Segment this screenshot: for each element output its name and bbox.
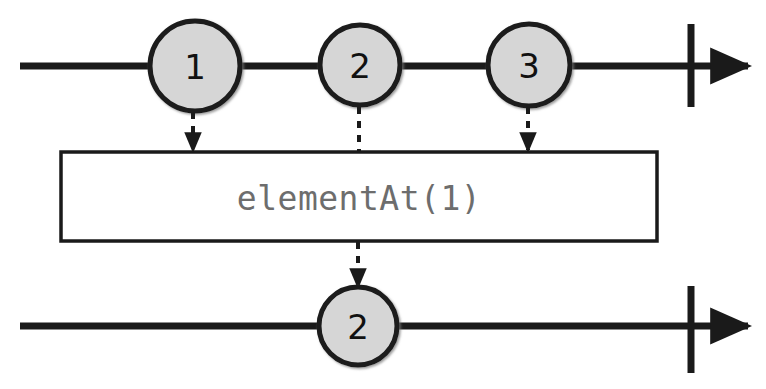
source-marble-2[interactable]: 2 — [320, 25, 400, 105]
marble-circle — [319, 287, 397, 365]
result-timeline: 2 — [20, 286, 748, 373]
marble-circle — [320, 25, 400, 105]
operator-box[interactable]: elementAt(1) — [61, 152, 657, 241]
marble-circle — [150, 21, 240, 111]
source-marble-3[interactable]: 3 — [488, 24, 570, 106]
marble-diagram-canvas: 1 2 3 elementAt(1) — [0, 0, 766, 389]
operator-label: elementAt(1) — [237, 179, 481, 218]
source-timeline: 1 2 3 — [20, 21, 748, 111]
result-marble-1[interactable]: 2 — [319, 287, 397, 365]
marble-circle — [488, 24, 570, 106]
source-marble-1[interactable]: 1 — [150, 21, 240, 111]
marble-diagram: 1 2 3 elementAt(1) — [0, 0, 766, 389]
operator-connectors — [193, 107, 528, 153]
